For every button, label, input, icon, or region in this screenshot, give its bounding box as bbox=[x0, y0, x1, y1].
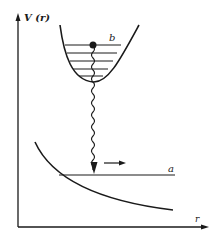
photon-wavy-line bbox=[92, 46, 95, 170]
upper-state-label: b bbox=[109, 32, 115, 43]
y-axis-arrow-icon bbox=[16, 13, 21, 21]
potential-energy-diagram: V (r) r b a bbox=[0, 0, 219, 243]
x-axis-arrow-icon bbox=[201, 225, 209, 230]
particle-dot bbox=[90, 42, 97, 49]
lower-state-label: a bbox=[168, 163, 174, 174]
x-axis-label: r bbox=[195, 214, 200, 224]
down-arrow-icon bbox=[91, 162, 98, 174]
repulsive-potential-curve bbox=[35, 142, 173, 210]
vibrational-levels bbox=[65, 45, 121, 76]
y-axis-label: V (r) bbox=[24, 12, 50, 23]
upper-potential-well bbox=[60, 25, 139, 82]
right-arrow-head-icon bbox=[119, 161, 126, 166]
